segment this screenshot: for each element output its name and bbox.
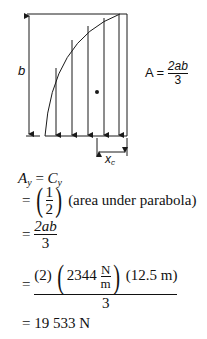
equation-line-3: = 2ab3 xyxy=(22,218,57,251)
equation-line-5: = 19 533 N xyxy=(22,315,90,332)
equation-line-4: = (2) (2344 Nm) (12.5 m) 3 xyxy=(22,258,177,311)
dimension-b-label: b xyxy=(18,63,25,78)
equation-line-2: = (12) (area under parabola) xyxy=(22,183,196,217)
centroid-dot xyxy=(95,90,99,94)
area-formula: A = 2ab3 xyxy=(145,60,188,87)
dimension-xc-label: xc xyxy=(105,152,115,167)
